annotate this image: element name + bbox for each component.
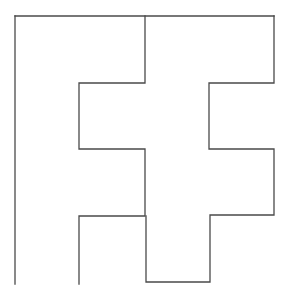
shared-boundary	[79, 16, 145, 284]
diagram-canvas	[0, 0, 290, 299]
right-outline	[146, 16, 274, 282]
left-f-piece	[15, 16, 274, 284]
right-f-piece	[146, 16, 274, 282]
